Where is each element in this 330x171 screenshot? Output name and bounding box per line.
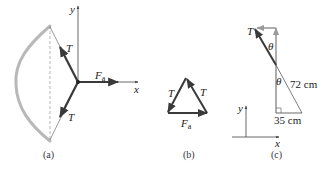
panel-b: T T Fa (b): [168, 78, 207, 161]
tension-upper-label: T: [66, 42, 73, 54]
theta-lower-label: θ: [276, 75, 282, 87]
figure-root: y x T T Fa (a) T T Fa (b) T θ θ 72 cm 35…: [0, 0, 330, 171]
triangle-tension-left-label: T: [168, 87, 175, 99]
triangle-tension-right-label: T: [200, 86, 207, 98]
bow-limb: [16, 26, 50, 141]
caption-b: (b): [183, 149, 195, 161]
panel-a: y x T T Fa (a): [16, 3, 139, 161]
applied-force-label: Fa: [94, 69, 106, 83]
caption-a: (a): [43, 149, 54, 161]
y-axis-label: y: [69, 3, 75, 15]
tension-label: T: [247, 25, 254, 37]
theta-upper-label: θ: [268, 40, 274, 52]
tension-lower-label: T: [68, 111, 75, 123]
c-x-axis-label: x: [274, 137, 280, 149]
hypotenuse-length-label: 72 cm: [290, 78, 318, 90]
base-length-label: 35 cm: [274, 114, 302, 126]
triangle-force-label: Fa: [180, 117, 192, 131]
caption-c: (c): [271, 149, 282, 161]
panel-c: T θ θ 72 cm 35 cm y x (c): [232, 25, 318, 161]
origin-point: [76, 80, 80, 84]
c-y-axis-label: y: [237, 102, 243, 114]
x-axis-label: x: [133, 83, 139, 95]
